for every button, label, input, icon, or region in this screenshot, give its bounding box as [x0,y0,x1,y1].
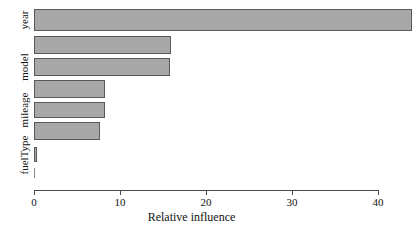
bar-year [34,9,412,31]
y-axis-label-fueltype: fuelType [18,125,31,185]
x-tick-40 [378,190,379,195]
bar-bar-4 [34,80,105,98]
bar-bar-6 [34,122,100,140]
x-tick-20 [206,190,207,195]
x-tick-10 [120,190,121,195]
x-tick-30 [292,190,293,195]
bar-model [34,58,170,76]
plot-area [34,0,378,190]
bar-bar-8 [34,168,35,178]
x-tick-label-40: 40 [363,196,393,208]
bar-mileage [34,102,105,118]
x-axis-title: Relative influence [0,210,383,224]
bar-fuelType [34,147,37,162]
x-tick-0 [34,190,35,195]
x-tick-label-0: 0 [19,196,49,208]
bar-bar-2 [34,36,171,54]
x-tick-label-20: 20 [191,196,221,208]
x-tick-label-30: 30 [277,196,307,208]
x-tick-label-10: 10 [105,196,135,208]
